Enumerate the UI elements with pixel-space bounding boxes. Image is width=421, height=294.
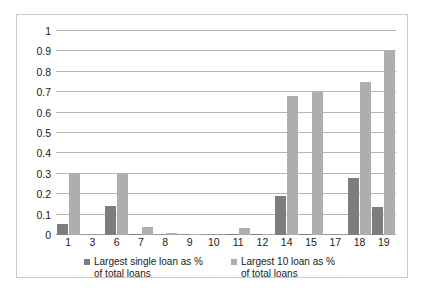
bar-group (227, 31, 250, 235)
legend-entry[interactable]: Largest single loan as % of total loans (84, 256, 203, 280)
bar (166, 233, 177, 235)
x-tick-label: 11 (233, 237, 244, 248)
y-tick-label: 0.2 (36, 189, 51, 200)
x-tick-label: 15 (305, 237, 317, 248)
x-tick-label: 19 (378, 237, 390, 248)
bar (227, 234, 238, 235)
chart-legend: Largest single loan as % of total loansL… (56, 256, 396, 280)
x-tick-label: 14 (281, 237, 293, 248)
x-tick-label: 9 (187, 237, 193, 248)
bar-group (178, 31, 201, 235)
y-tick-label: 0.1 (36, 209, 51, 220)
x-tick-label: 3 (90, 237, 96, 248)
bar-group (130, 31, 153, 235)
bar-group (348, 31, 371, 235)
bar (372, 207, 383, 235)
y-axis: 00.10.20.30.40.50.60.70.80.91 (17, 31, 51, 235)
bar (142, 227, 153, 235)
x-tick-label: 6 (114, 237, 120, 248)
bar (69, 173, 80, 235)
x-axis: 1367891011121415171819 (56, 237, 396, 253)
bar (348, 178, 359, 235)
y-tick-label: 0.3 (36, 169, 51, 180)
y-tick-label: 0.7 (36, 87, 51, 98)
x-tick-label: 18 (354, 237, 366, 248)
legend-swatch-icon (84, 259, 90, 265)
bar (117, 174, 128, 235)
legend-label: Largest 10 loan as % of total loans (241, 256, 335, 280)
y-tick-label: 0.5 (36, 128, 51, 139)
bar (190, 234, 201, 235)
bar-group (154, 31, 177, 235)
bar (287, 96, 298, 235)
bar (275, 196, 286, 235)
x-tick-label: 17 (329, 237, 341, 248)
bar (105, 206, 116, 235)
legend-entry[interactable]: Largest 10 loan as % of total loans (231, 256, 335, 280)
y-tick-label: 1 (45, 26, 51, 37)
bar (239, 228, 250, 235)
bar-group (300, 31, 323, 235)
x-tick-label: 1 (65, 237, 71, 248)
legend-label: Largest single loan as % of total loans (94, 256, 203, 280)
plot-area (56, 31, 396, 235)
bar (300, 234, 311, 235)
bar-group (275, 31, 298, 235)
chart-frame: 00.10.20.30.40.50.60.70.80.91 1367891011… (16, 14, 408, 278)
bar (251, 234, 262, 235)
bar-group (81, 31, 104, 235)
bar (360, 82, 371, 235)
bar-group (251, 31, 274, 235)
y-tick-label: 0.4 (36, 148, 51, 159)
bar-group (105, 31, 128, 235)
bar-group (324, 31, 347, 235)
bar (57, 224, 68, 235)
y-tick-label: 0.9 (36, 46, 51, 57)
x-tick-label: 7 (138, 237, 144, 248)
x-tick-label: 10 (208, 237, 220, 248)
y-tick-label: 0.8 (36, 67, 51, 78)
bar-group (57, 31, 80, 235)
bar-group (372, 31, 395, 235)
bar (384, 50, 395, 235)
bar-group (202, 31, 225, 235)
legend-swatch-icon (231, 259, 237, 265)
y-tick-label: 0 (45, 230, 51, 241)
bar (312, 92, 323, 235)
y-tick-label: 0.6 (36, 107, 51, 118)
bar (263, 234, 274, 235)
bar (130, 234, 141, 235)
x-tick-label: 12 (257, 237, 269, 248)
x-tick-label: 8 (162, 237, 168, 248)
